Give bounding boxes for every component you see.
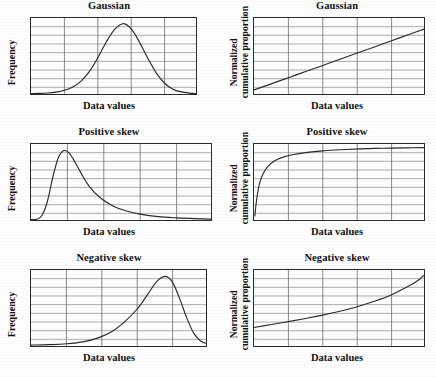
plot-area (253, 143, 425, 221)
plot-area (30, 143, 212, 221)
plot-svg (31, 18, 197, 95)
y-axis-label-line1: Normalized (229, 157, 240, 219)
panel-title: Positive skew (0, 126, 218, 138)
y-axis-label-line1: Normalized (229, 283, 240, 345)
panel-negative-skew-cumulative: Negative skew Normalized cumulative prop… (218, 252, 436, 377)
x-axis-label: Data values (238, 226, 436, 238)
panel-title: Negative skew (238, 252, 436, 264)
x-axis-label: Data values (0, 100, 218, 112)
x-axis-label: Data values (0, 226, 218, 238)
plot-svg (254, 270, 425, 347)
panel-title: Gaussian (0, 0, 218, 12)
plot-area (253, 17, 425, 95)
y-axis-label-line1: Normalized (229, 31, 240, 93)
panel-title: Positive skew (238, 126, 436, 138)
y-axis-label-line2: cumulative proportion (240, 152, 251, 224)
plot-area (30, 17, 197, 95)
panel-title: Gaussian (238, 0, 436, 12)
plot-area (253, 269, 425, 347)
y-axis-label: Frequency (6, 33, 17, 93)
plot-svg (31, 144, 212, 221)
panel-positive-skew-frequency: Positive skew Frequency Data values (0, 126, 218, 252)
plot-svg (31, 270, 207, 347)
x-axis-label: Data values (238, 100, 436, 112)
panel-gaussian-frequency: Gaussian Frequency Data values (0, 0, 218, 126)
panel-positive-skew-cumulative: Positive skew Normalized cumulative prop… (218, 126, 436, 252)
y-axis-label-line2: cumulative proportion (240, 26, 251, 98)
y-axis-label-line2: cumulative proportion (240, 278, 251, 350)
panel-title: Negative skew (0, 252, 218, 264)
plot-area (30, 269, 207, 347)
x-axis-label: Data values (0, 352, 218, 364)
y-axis-label: Frequency (6, 159, 17, 219)
panel-gaussian-cumulative: Gaussian Normalized cumulative proportio… (218, 0, 436, 126)
plot-svg (254, 144, 425, 221)
panel-negative-skew-frequency: Negative skew Frequency Data values (0, 252, 218, 377)
statistical-distributions-figure: Gaussian Frequency Data values Gaussian … (0, 0, 436, 377)
y-axis-label: Frequency (6, 285, 17, 345)
x-axis-label: Data values (238, 352, 436, 364)
plot-svg (254, 18, 425, 95)
